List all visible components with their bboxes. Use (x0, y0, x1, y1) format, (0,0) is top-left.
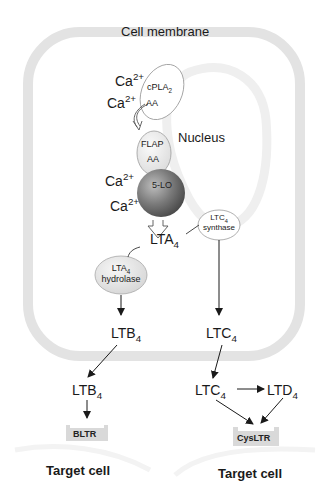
five-lo-enzyme (137, 169, 185, 217)
ion-charge: 2+ (125, 93, 136, 104)
enzyme-name-line2: synthase (203, 223, 235, 232)
ltc4-to-cysltr-arrow (216, 400, 253, 424)
metabolite-subscript: 4 (97, 390, 102, 401)
cpla2-substrate-label: AA (146, 99, 158, 108)
enzyme-name-line2: hydrolase (101, 274, 140, 284)
calcium-ion-label: Ca2+ (105, 172, 134, 188)
calcium-ion-label: Ca2+ (115, 72, 144, 88)
enzyme-name: LTC (210, 213, 225, 222)
target-cell-right-label: Target cell (218, 467, 282, 480)
five-lo-label: 5-LO (152, 181, 172, 190)
enzyme-subscript: 2 (169, 87, 173, 94)
calcium-ion-label: Ca2+ (110, 197, 139, 213)
metabolite-name: LTA (150, 231, 174, 247)
flap-protein (137, 131, 171, 175)
ion-charge: 2+ (128, 196, 139, 207)
metabolite-subscript: 4 (231, 333, 236, 344)
metabolite-subscript: 4 (292, 390, 297, 401)
enzyme-name: LTA (112, 263, 127, 273)
ltd4-to-cysltr-arrow (261, 398, 283, 423)
ion-base: Ca (110, 198, 128, 214)
ion-base: Ca (105, 173, 123, 189)
bltr-receptor-label: BLTR (73, 430, 96, 439)
calcium-ion-label: Ca2+ (107, 94, 136, 110)
flap-label: FLAP (141, 140, 164, 149)
ltd4-outside-label: LTD4 (267, 383, 298, 401)
ltc4-inside-label: LTC4 (206, 326, 237, 344)
ion-charge: 2+ (133, 71, 144, 82)
lta4-label: LTA4 (150, 232, 179, 250)
ltb4-outside-label: LTB4 (72, 383, 102, 401)
flap-substrate-label: AA (147, 155, 159, 164)
metabolite-name: LTB (111, 325, 136, 341)
ltb4-inside-label: LTB4 (111, 326, 141, 344)
metabolite-name: LTC (195, 382, 220, 398)
metabolite-subscript: 4 (136, 333, 141, 344)
target-cell-left-label: Target cell (46, 464, 110, 477)
metabolite-subscript: 4 (220, 390, 225, 401)
ltc4-outside-label: LTC4 (195, 383, 226, 401)
cell-membrane-label: Cell membrane (121, 25, 209, 38)
metabolite-name: LTD (267, 382, 292, 398)
metabolite-name: LTC (206, 325, 231, 341)
nucleus-label: Nucleus (178, 131, 225, 144)
lta4-hydrolase-label: LTA4 hydrolase (96, 264, 146, 285)
cysltr-receptor-label: CysLTR (237, 434, 270, 443)
metabolite-name: LTB (72, 382, 97, 398)
enzyme-name: cPLA (147, 82, 169, 92)
ion-charge: 2+ (123, 171, 134, 182)
ltc4-synthase-label: LTC4 synthase (199, 214, 239, 233)
metabolite-subscript: 4 (174, 239, 179, 250)
cpla2-label: cPLA2 (147, 83, 172, 94)
ltc4-export-arrow (213, 345, 222, 378)
ion-base: Ca (115, 73, 133, 89)
ion-base: Ca (107, 95, 125, 111)
